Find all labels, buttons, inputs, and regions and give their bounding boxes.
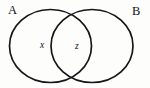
set-label-a: A	[8, 4, 17, 17]
set-label-b: B	[132, 5, 141, 18]
region-label-x: x	[40, 41, 44, 51]
venn-diagram-figure: A B x z	[0, 0, 150, 88]
region-label-z: z	[75, 42, 79, 52]
